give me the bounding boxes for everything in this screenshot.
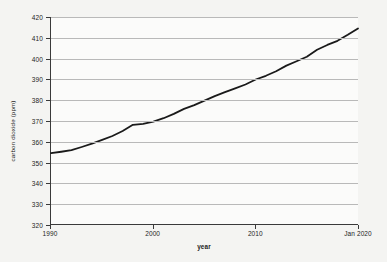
y-tick-label-390: 390: [32, 76, 43, 83]
x-tick-label-2020: Jan 2020: [344, 230, 372, 237]
x-tick-mark-2000: [153, 225, 154, 229]
gridline-y-410: [51, 38, 358, 39]
x-tick-mark-2020: [358, 225, 359, 229]
x-axis-ticks: 199020002010Jan 2020: [50, 225, 358, 241]
plot-area: [50, 17, 358, 225]
y-tick-label-330: 330: [32, 201, 43, 208]
y-tick-label-410: 410: [32, 34, 43, 41]
x-tick-label-1990: 1990: [43, 230, 58, 237]
x-axis-title: year: [197, 243, 211, 250]
y-tick-label-340: 340: [32, 180, 43, 187]
y-tick-label-420: 420: [32, 14, 43, 21]
gridline-y-350: [51, 163, 358, 164]
y-tick-label-380: 380: [32, 97, 43, 104]
co2-line-chart: carbon dioxide (ppm) 3203303403503603703…: [0, 0, 387, 262]
gridline-y-340: [51, 183, 358, 184]
gridline-y-370: [51, 121, 358, 122]
x-tick-mark-1990: [50, 225, 51, 229]
gridline-y-390: [51, 79, 358, 80]
gridline-y-400: [51, 59, 358, 60]
x-tick-label-2000: 2000: [145, 230, 160, 237]
x-tick-label-2010: 2010: [248, 230, 263, 237]
y-tick-label-360: 360: [32, 138, 43, 145]
x-tick-mark-2010: [255, 225, 256, 229]
y-tick-label-350: 350: [32, 159, 43, 166]
y-axis-ticks: 320330340350360370380390400410420: [0, 17, 50, 225]
y-tick-label-320: 320: [32, 222, 43, 229]
y-tick-label-400: 400: [32, 55, 43, 62]
gridline-y-360: [51, 142, 358, 143]
y-tick-label-370: 370: [32, 118, 43, 125]
gridline-y-380: [51, 100, 358, 101]
gridline-y-420: [51, 17, 358, 18]
gridline-y-330: [51, 204, 358, 205]
